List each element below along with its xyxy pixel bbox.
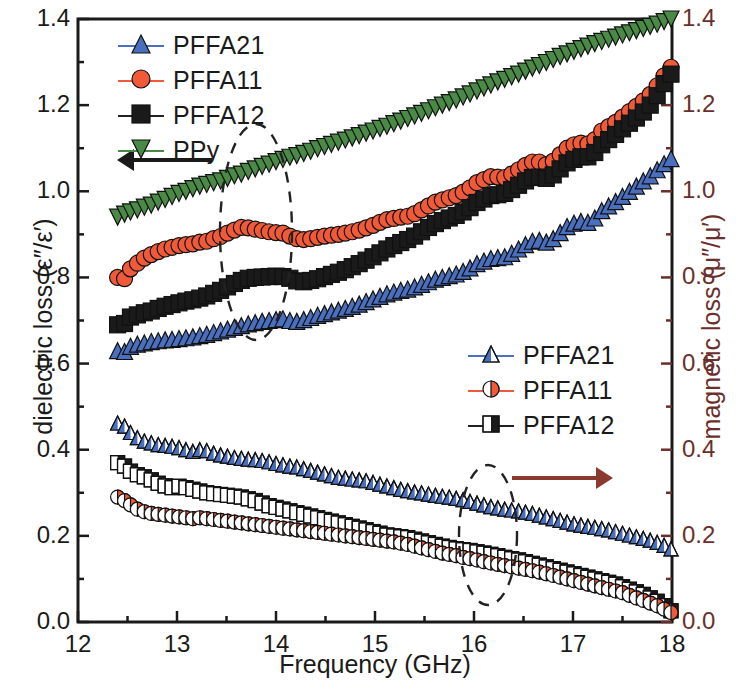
legend-item[interactable]: PFFA21 bbox=[118, 28, 265, 63]
legend-marker-square-icon bbox=[130, 103, 152, 129]
data-marker bbox=[483, 416, 499, 432]
legend-marker-square-half-icon bbox=[481, 414, 501, 438]
legend-item[interactable]: PFFA21 bbox=[468, 338, 615, 373]
x-tick-label: 15 bbox=[345, 630, 405, 658]
y-tick-label: 0.8 bbox=[0, 262, 70, 290]
legend-line bbox=[118, 45, 164, 47]
legend-line bbox=[118, 115, 164, 117]
legend-marker-triangle-down-icon bbox=[130, 138, 152, 164]
y-tick-label: 1.0 bbox=[0, 176, 70, 204]
legend-line bbox=[468, 425, 514, 427]
legend-label: PFFA11 bbox=[173, 66, 263, 95]
y-tick-label: 0.4 bbox=[0, 435, 70, 463]
data-marker bbox=[132, 70, 150, 88]
x-tick-label: 17 bbox=[543, 630, 603, 658]
y2-tick-label: 0.6 bbox=[682, 349, 750, 377]
x-tick-label: 14 bbox=[246, 630, 306, 658]
x-tick-label: 16 bbox=[444, 630, 504, 658]
legend-line bbox=[118, 80, 164, 82]
x-tick-label: 13 bbox=[147, 630, 207, 658]
right-arrow bbox=[512, 467, 613, 489]
chart-figure: dielectric loss (ε″/ε′) magnetic loss (μ… bbox=[0, 0, 750, 693]
legend-item[interactable]: PPy bbox=[118, 133, 265, 168]
x-tick-label: 18 bbox=[642, 630, 702, 658]
y2-tick-label: 1.4 bbox=[682, 4, 750, 32]
legend-item[interactable]: PFFA12 bbox=[468, 408, 615, 443]
data-marker bbox=[132, 140, 150, 158]
data-marker bbox=[664, 606, 678, 620]
y-tick-label: 1.2 bbox=[0, 90, 70, 118]
y-tick-label: 1.4 bbox=[0, 4, 70, 32]
legend-marker-circle-half-icon bbox=[481, 379, 501, 403]
series-PFFA11-right bbox=[111, 490, 678, 619]
legend-line bbox=[468, 390, 514, 392]
legend-label: PFFA12 bbox=[173, 101, 265, 130]
legend-label: PPy bbox=[173, 136, 219, 165]
data-marker bbox=[483, 346, 499, 362]
legend-line bbox=[118, 150, 164, 152]
legend-item[interactable]: PFFA12 bbox=[118, 98, 265, 133]
legend-item[interactable]: PFFA11 bbox=[468, 373, 615, 408]
legend-left: PFFA21PFFA11PFFA12PPy bbox=[118, 28, 265, 168]
legend-label: PFFA21 bbox=[173, 31, 265, 60]
y-tick-label: 0.2 bbox=[0, 521, 70, 549]
data-marker bbox=[132, 35, 150, 53]
y2-tick-label: 1.2 bbox=[682, 90, 750, 118]
legend-label: PFFA21 bbox=[523, 341, 615, 370]
plot-canvas bbox=[0, 0, 750, 693]
legend-item[interactable]: PFFA11 bbox=[118, 63, 265, 98]
legend-marker-triangle-up-half-icon bbox=[481, 344, 501, 368]
data-marker bbox=[483, 381, 499, 397]
data-marker bbox=[132, 105, 150, 123]
legend-line bbox=[468, 355, 514, 357]
x-tick-label: 12 bbox=[48, 630, 108, 658]
legend-label: PFFA11 bbox=[523, 376, 613, 405]
legend-right: PFFA21PFFA11PFFA12 bbox=[468, 338, 615, 443]
y2-tick-label: 0.8 bbox=[682, 262, 750, 290]
y-axis-left-title: dielectric loss (ε″/ε′) bbox=[29, 92, 58, 562]
y-tick-label: 0.6 bbox=[0, 349, 70, 377]
y-axis-right-title: magnetic loss (μ″/μ′) bbox=[697, 92, 726, 562]
legend-marker-triangle-up-icon bbox=[130, 33, 152, 59]
legend-marker-circle-icon bbox=[130, 68, 152, 94]
legend-label: PFFA12 bbox=[523, 411, 615, 440]
data-marker bbox=[663, 66, 679, 82]
y2-tick-label: 0.4 bbox=[682, 435, 750, 463]
y2-tick-label: 1.0 bbox=[682, 176, 750, 204]
lower-ellipse bbox=[459, 465, 517, 605]
y2-tick-label: 0.2 bbox=[682, 521, 750, 549]
